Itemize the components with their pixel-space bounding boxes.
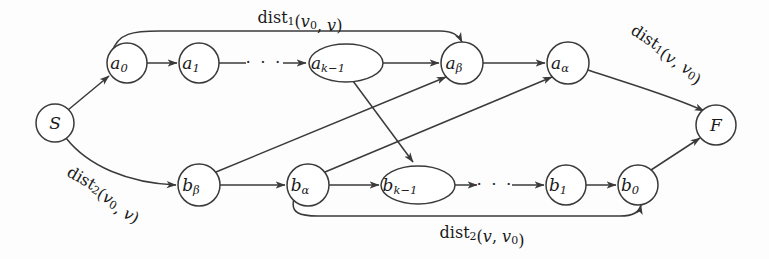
graph-edge bbox=[68, 76, 109, 110]
graph-edge bbox=[651, 138, 700, 170]
edge-labels-layer: dist1(v0, v)dist1(v, v0)dist2(v0, v)dist… bbox=[60, 8, 709, 250]
graph-diagram-figure: Sa0a1ak−1aβaαFbβbαbk−1b1b0 · · ·· · · di… bbox=[0, 0, 769, 259]
graph-node: b0 bbox=[618, 165, 658, 205]
edge-label: dist1(v, v0) bbox=[623, 20, 709, 89]
graph-node: bα bbox=[287, 164, 329, 206]
graph-node: S bbox=[36, 104, 74, 142]
graph-node: a0 bbox=[107, 43, 147, 83]
graph-edge bbox=[325, 77, 552, 172]
graph-edge bbox=[353, 81, 413, 162]
ellipsis-marker: · · · bbox=[245, 52, 282, 72]
graph-node: F bbox=[696, 105, 736, 145]
graph-node: ak−1 bbox=[309, 44, 383, 82]
edge-label: dist2(v, v0) bbox=[440, 223, 525, 250]
graph-edge bbox=[112, 31, 462, 52]
ellipsis-marker: · · · bbox=[476, 174, 513, 194]
diagram-canvas: Sa0a1ak−1aβaαFbβbαbk−1b1b0 · · ·· · · di… bbox=[0, 0, 769, 259]
graph-node: b1 bbox=[546, 165, 586, 205]
graph-node: aα bbox=[547, 42, 589, 84]
node-label: S bbox=[49, 113, 61, 133]
graph-node: a1 bbox=[179, 43, 219, 83]
graph-edge bbox=[216, 77, 446, 172]
edge-label: dist2(v0, v) bbox=[60, 162, 147, 228]
graph-node: bk−1 bbox=[381, 166, 455, 204]
graph-node: bβ bbox=[178, 164, 220, 206]
graph-node: aβ bbox=[441, 42, 483, 84]
graph-edge bbox=[293, 199, 641, 216]
node-label: F bbox=[709, 115, 723, 135]
